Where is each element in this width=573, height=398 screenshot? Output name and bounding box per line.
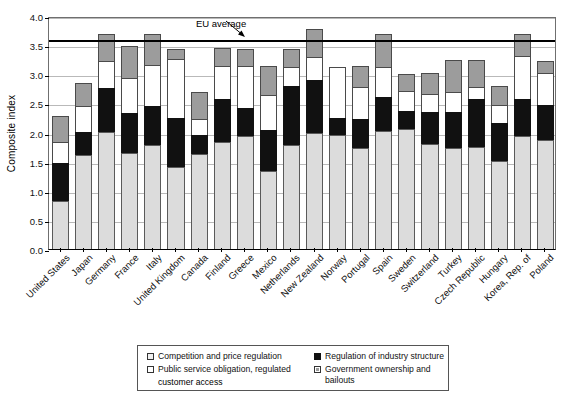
y-tick-label: 3.0 — [30, 72, 43, 82]
legend-item-industry-structure: Regulation of industry structure — [314, 351, 454, 362]
y-tick-label: 0.5 — [30, 217, 43, 227]
bar-segment — [191, 119, 208, 136]
x-tick-mark — [360, 248, 361, 252]
bar-segment — [306, 57, 323, 80]
bar-segment — [75, 155, 92, 249]
legend-column-right: Regulation of industry structure Governm… — [314, 351, 454, 388]
bar-segment — [537, 61, 554, 73]
bar-segment — [398, 111, 415, 129]
bar-segment — [52, 116, 69, 142]
bar-segment — [329, 118, 346, 135]
bar-segment — [398, 129, 415, 249]
x-tick-mark — [129, 248, 130, 252]
bar-series-group — [49, 18, 555, 249]
bar-new-zealand[interactable] — [306, 29, 323, 249]
bar-italy[interactable] — [144, 34, 161, 250]
bar-finland[interactable] — [214, 48, 231, 250]
x-tick-mark — [198, 248, 199, 252]
x-tick-mark — [475, 248, 476, 252]
bar-poland[interactable] — [537, 61, 554, 249]
y-tick-label: 0.0 — [30, 246, 43, 256]
bar-netherlands[interactable] — [283, 49, 300, 249]
bar-czech-republic[interactable] — [468, 60, 485, 249]
legend-item-government-ownership: Government ownership and bailouts — [314, 364, 454, 386]
legend-column-left: Competition and price regulation Public … — [147, 351, 317, 388]
bar-france[interactable] — [121, 46, 138, 249]
bar-canada[interactable] — [191, 92, 208, 249]
bar-segment — [260, 66, 277, 95]
bar-segment — [98, 61, 115, 88]
bar-portugal[interactable] — [352, 66, 369, 249]
bar-segment — [144, 106, 161, 145]
bar-sweden[interactable] — [398, 74, 415, 249]
x-tick-mark — [498, 248, 499, 252]
bar-segment — [191, 92, 208, 118]
x-tick-mark — [244, 248, 245, 252]
bar-hungary[interactable] — [491, 86, 508, 249]
x-tick-mark — [267, 248, 268, 252]
x-tick-mark — [83, 248, 84, 252]
bar-germany[interactable] — [98, 34, 115, 250]
bar-segment — [514, 99, 531, 136]
x-tick-label: Poland — [528, 252, 557, 281]
bar-segment — [445, 148, 462, 249]
bar-korea-rep-of[interactable] — [514, 34, 531, 249]
bar-segment — [167, 167, 184, 249]
x-tick-mark — [106, 248, 107, 252]
bar-segment — [237, 49, 254, 66]
light-gray-swatch-icon — [147, 353, 154, 360]
x-tick-label: Greece — [226, 252, 256, 282]
bar-segment — [214, 99, 231, 142]
bar-segment — [468, 99, 485, 147]
bar-segment — [144, 145, 161, 249]
bar-segment — [260, 171, 277, 249]
bar-segment — [260, 130, 277, 171]
y-tick-label: 2.0 — [30, 130, 43, 140]
bar-segment — [352, 66, 369, 87]
x-tick-mark — [429, 248, 430, 252]
bar-segment — [468, 87, 485, 99]
bar-segment — [52, 163, 69, 200]
bar-united-kingdom[interactable] — [167, 49, 184, 249]
bar-segment — [283, 145, 300, 249]
bar-norway[interactable] — [329, 67, 346, 249]
y-tick-label: 1.5 — [30, 159, 43, 169]
chart-legend: Competition and price regulation Public … — [137, 345, 449, 391]
bar-segment — [237, 108, 254, 136]
bar-segment — [445, 112, 462, 148]
black-swatch-icon — [314, 353, 321, 360]
legend-label: Regulation of industry structure — [325, 351, 444, 362]
bar-segment — [352, 148, 369, 249]
bar-segment — [306, 29, 323, 56]
bar-turkey[interactable] — [445, 60, 462, 249]
bar-segment — [491, 123, 508, 161]
bar-segment — [445, 60, 462, 92]
bar-greece[interactable] — [237, 49, 254, 249]
bar-segment — [491, 105, 508, 124]
bar-united-states[interactable] — [52, 116, 69, 249]
bar-segment — [514, 56, 531, 99]
bar-segment — [352, 119, 369, 148]
bar-mexico[interactable] — [260, 66, 277, 249]
bar-segment — [98, 34, 115, 61]
legend-item-competition: Competition and price regulation — [147, 351, 317, 362]
bar-segment — [52, 142, 69, 164]
bar-segment — [144, 65, 161, 106]
bar-segment — [283, 67, 300, 86]
bar-segment — [329, 67, 346, 118]
x-tick-mark — [521, 248, 522, 252]
y-tick-label: 2.5 — [30, 101, 43, 111]
bar-segment — [214, 66, 231, 99]
bar-switzerland[interactable] — [421, 73, 438, 249]
bar-segment — [237, 66, 254, 108]
bar-segment — [121, 78, 138, 112]
x-tick-mark — [152, 248, 153, 252]
bar-segment — [329, 135, 346, 249]
x-tick-mark — [175, 248, 176, 252]
bar-segment — [421, 94, 438, 111]
legend-label: Competition and price regulation — [158, 351, 282, 362]
bar-segment — [514, 136, 531, 249]
bar-japan[interactable] — [75, 83, 92, 249]
bar-spain[interactable] — [375, 34, 392, 249]
x-tick-mark — [60, 248, 61, 252]
